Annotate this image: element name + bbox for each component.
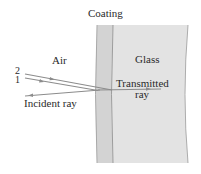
coating-region <box>96 25 114 163</box>
coating-label: Coating <box>88 8 123 19</box>
incident-ray <box>25 90 100 96</box>
air-label: Air <box>52 55 67 66</box>
reflected-ray-1-label: 1 <box>15 75 20 85</box>
glass-label: Glass <box>135 54 159 65</box>
diagram-graphic <box>0 0 201 174</box>
incident-ray-label: Incident ray <box>24 98 77 109</box>
thin-film-coating-diagram: Coating Air Glass Transmitted ray 2 1 In… <box>0 0 201 174</box>
reflected-ray-1 <box>25 78 98 91</box>
transmitted-ray-label: ray <box>135 89 149 100</box>
reflected-2-arrow-icon <box>50 77 56 80</box>
glass-region <box>112 25 189 163</box>
